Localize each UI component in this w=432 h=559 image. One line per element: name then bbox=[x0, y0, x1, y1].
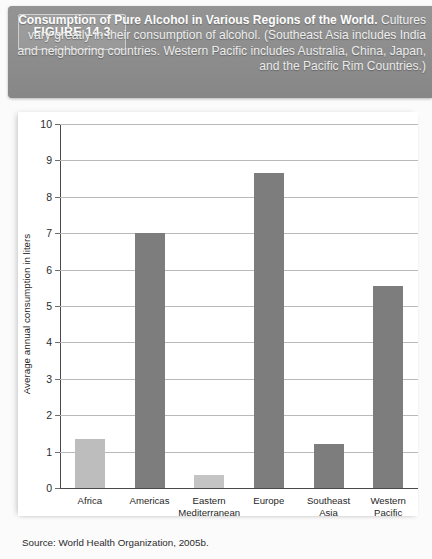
bar: Europe bbox=[254, 173, 284, 488]
y-axis-tick-label: 3 bbox=[46, 373, 52, 385]
figure-header-banner: FIGURE 14.3 Consumption of Pure Alcohol … bbox=[8, 6, 432, 98]
bar: Americas bbox=[135, 233, 165, 488]
x-axis-category-label: Western Pacific bbox=[352, 495, 424, 518]
y-axis-tick-label: 5 bbox=[46, 300, 52, 312]
bar: Southeast Asia bbox=[314, 444, 344, 488]
plot-area: 012345678910 AfricaAmericasEastern Medit… bbox=[60, 124, 418, 489]
bar: Eastern Mediterranean bbox=[194, 475, 224, 488]
source-note: Source: World Health Organization, 2005b… bbox=[22, 537, 209, 548]
figure-caption: Consumption of Pure Alcohol in Various R… bbox=[14, 13, 430, 75]
figure-caption-title: Consumption of Pure Alcohol in Various R… bbox=[18, 13, 377, 27]
y-axis-tick-label: 10 bbox=[40, 118, 52, 130]
y-axis-title: Average annual consumption in liters bbox=[21, 234, 32, 394]
y-axis-tick-label: 0 bbox=[46, 482, 52, 494]
y-axis-tick bbox=[55, 488, 60, 489]
bar: Africa bbox=[75, 439, 105, 488]
y-axis-tick-label: 9 bbox=[46, 154, 52, 166]
bars-group: AfricaAmericasEastern MediterraneanEurop… bbox=[60, 124, 418, 488]
y-axis-tick-label: 6 bbox=[46, 264, 52, 276]
y-axis-tick-label: 8 bbox=[46, 191, 52, 203]
y-axis-tick-label: 2 bbox=[46, 409, 52, 421]
y-axis-tick-label: 1 bbox=[46, 446, 52, 458]
x-axis-line bbox=[60, 488, 418, 489]
chart-panel: Average annual consumption in liters 012… bbox=[18, 112, 418, 516]
y-axis-tick-label: 7 bbox=[46, 227, 52, 239]
bar: Western Pacific bbox=[373, 286, 403, 488]
y-axis-tick-label: 4 bbox=[46, 336, 52, 348]
